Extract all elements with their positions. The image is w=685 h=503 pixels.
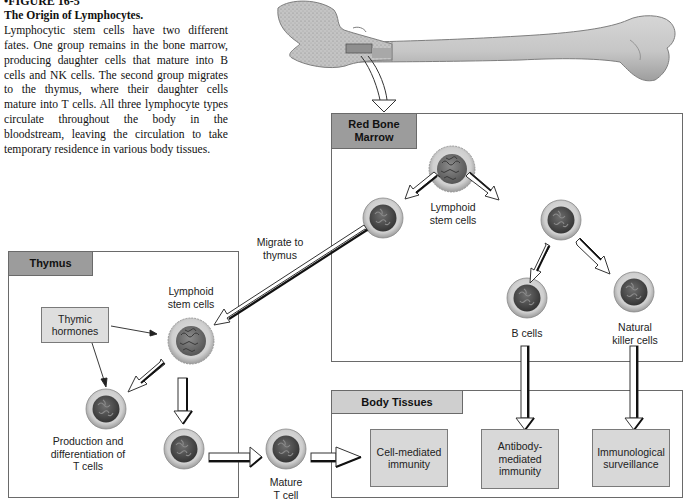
immunological-surveillance-box: Immunological surveillance [592,429,670,487]
nk-to-surveillance-arrow [625,346,643,430]
b-to-antibody-arrow [516,346,534,430]
migrate-to-thymus-label: Migrate to thymus [245,236,315,261]
thymus-arrows [128,359,361,467]
diagram-graphics [0,0,685,503]
cell-mediated-immunity-box: Cell-mediated immunity [370,429,448,487]
mature-t-cell-label: Mature T cell [263,476,309,501]
antibody-mediated-immunity-box: Antibody- mediated immunity [481,429,559,489]
thymic-hormones-box: Thymic hormones [41,307,109,343]
natural-killer-cells-label: Natural killer cells [602,321,668,346]
marrow-stem-cells-label: Lymphoid stem cells [418,201,488,226]
thymus-stem-cells-label: Lymphoid stem cells [156,285,226,310]
bone-to-marrow-arrow [361,56,396,112]
femur-bone-illustration [278,1,675,81]
production-differentiation-label: Production and differentiation of T cell… [42,435,134,473]
b-cells-label: B cells [497,327,557,340]
